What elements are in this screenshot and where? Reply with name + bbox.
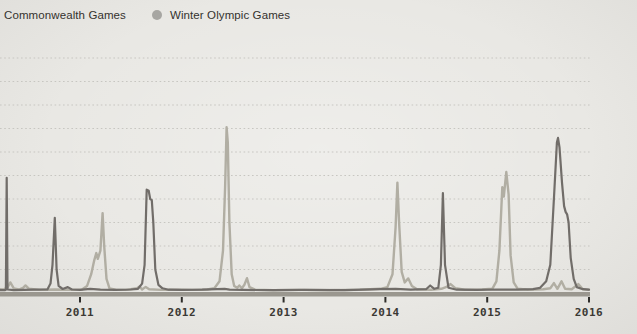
line-chart-canvas[interactable]: 201120122013201420152016	[0, 0, 637, 334]
legend-label: Commonwealth Games	[4, 9, 126, 21]
x-tick-label: 2012	[168, 306, 197, 319]
legend-label: Winter Olympic Games	[170, 9, 290, 21]
legend-item-commonwealth-games[interactable]: Commonwealth Games	[0, 9, 126, 21]
x-tick-label: 2015	[473, 306, 502, 319]
x-tick-label: 2011	[66, 306, 95, 319]
x-tick-label: 2016	[575, 306, 604, 319]
x-axis	[0, 292, 590, 297]
gridlines	[0, 58, 590, 270]
legend-item-winter-olympic-games[interactable]: Winter Olympic Games	[152, 9, 290, 21]
trends-chart-screen: Commonwealth Games Winter Olympic Games …	[0, 0, 637, 334]
series-marker-icon	[152, 10, 162, 20]
x-tick-label: 2014	[371, 306, 400, 319]
legend: Commonwealth Games Winter Olympic Games	[0, 6, 290, 24]
x-axis-ticks: 201120122013201420152016	[66, 297, 604, 319]
x-tick-label: 2013	[269, 306, 298, 319]
